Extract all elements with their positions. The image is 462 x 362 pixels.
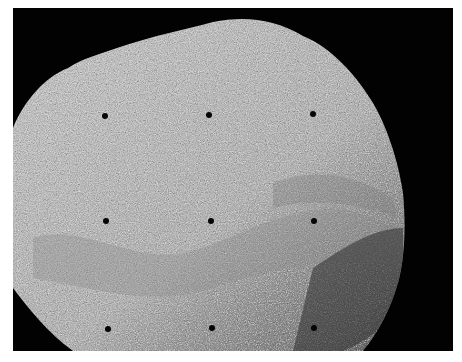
rock-photo [13, 8, 453, 351]
marker-dot [103, 218, 109, 224]
marker-dot [208, 218, 214, 224]
marker-dot [105, 326, 111, 332]
marker-dot [209, 325, 215, 331]
marker-dot [311, 325, 317, 331]
rock-surface [13, 8, 453, 351]
marker-dot [310, 111, 316, 117]
marker-dot [102, 113, 108, 119]
marker-dot [206, 112, 212, 118]
marker-dot [311, 218, 317, 224]
